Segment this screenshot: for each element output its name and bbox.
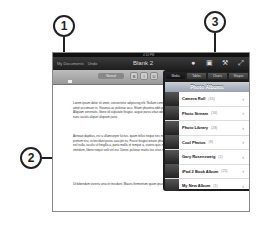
album-photo-stream[interactable]: Photo Stream (16) ›	[165, 107, 249, 122]
media-icon[interactable]: ▣	[205, 59, 213, 67]
album-thumbnail	[165, 164, 179, 178]
ipad-screen: 4:10 PM My Documents Undo Blank 2 ● ▣ ⚒ …	[52, 52, 250, 212]
album-camera-roll[interactable]: Camera Roll (10) ›	[165, 92, 249, 107]
info-icon[interactable]: ●	[189, 59, 197, 67]
album-ipad-2-book[interactable]: iPad 2 Book Album (25) ›	[165, 165, 249, 180]
album-gary-rosenzweig[interactable]: Gary Rosenzweig (1) ›	[165, 150, 249, 165]
album-thumbnail	[165, 135, 179, 149]
callout-2: 2	[20, 147, 42, 169]
chevron-right-icon: ›	[242, 168, 244, 174]
album-thumbnail	[165, 179, 179, 191]
bold-button[interactable]: B	[130, 72, 138, 80]
document-title: Blank 2	[133, 60, 153, 66]
tab-media[interactable]: Media	[165, 72, 186, 80]
italic-button[interactable]: I	[140, 72, 148, 80]
my-documents-button[interactable]: My Documents	[57, 61, 84, 66]
paragraph-style-button[interactable]: Normal	[98, 73, 124, 79]
ruler-marker[interactable]	[68, 80, 72, 83]
album-thumbnail	[165, 106, 179, 120]
callout-3: 3	[204, 11, 226, 33]
tools-icon[interactable]: ⚒	[221, 59, 229, 67]
album-thumbnail	[165, 92, 179, 106]
fullscreen-icon[interactable]: ⤢	[237, 59, 245, 67]
chevron-right-icon: ›	[242, 139, 244, 145]
tab-tables[interactable]: Tables	[186, 72, 207, 80]
chevron-right-icon: ›	[242, 154, 244, 160]
chevron-right-icon: ›	[242, 125, 244, 131]
tab-charts[interactable]: Charts	[207, 72, 228, 80]
toolbar: My Documents Undo Blank 2 ● ▣ ⚒ ⤢	[53, 57, 249, 70]
undo-button[interactable]: Undo	[88, 61, 98, 66]
popover-tabs: Media Tables Charts Shapes	[165, 72, 249, 80]
underline-button[interactable]: U	[150, 72, 158, 80]
media-popover: Media Tables Charts Shapes Photo Albums …	[163, 70, 250, 191]
album-thumbnail	[165, 150, 179, 164]
album-cool-photos[interactable]: Cool Photos (8) ›	[165, 136, 249, 151]
album-my-new-album[interactable]: My New Album (1) ›	[165, 179, 249, 191]
album-thumbnail	[165, 121, 179, 135]
chevron-right-icon: ›	[242, 110, 244, 116]
callout-1: 1	[53, 15, 75, 37]
photo-albums-header: Photo Albums	[165, 82, 249, 92]
tab-shapes[interactable]: Shapes	[228, 72, 249, 80]
photo-albums-list: Photo Albums Camera Roll (10) › Photo St…	[165, 82, 249, 189]
chevron-right-icon: ›	[242, 96, 244, 102]
album-photo-library[interactable]: Photo Library (28) ›	[165, 121, 249, 136]
chevron-right-icon: ›	[242, 183, 244, 189]
